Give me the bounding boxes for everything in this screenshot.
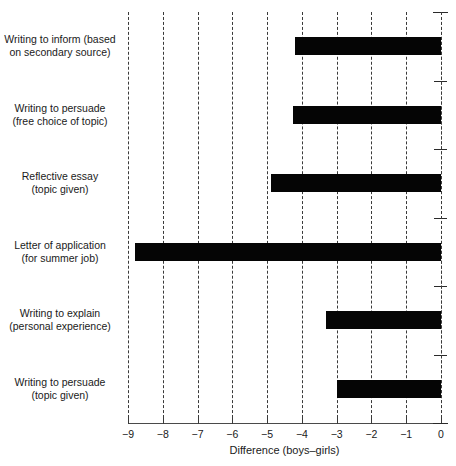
category-label-line: (personal experience) xyxy=(0,320,120,333)
category-label-line: (topic given) xyxy=(0,183,120,196)
gridline xyxy=(337,12,338,423)
x-tick xyxy=(337,418,338,424)
gridline xyxy=(198,12,199,423)
category-label: Letter of application(for summer job) xyxy=(0,239,120,265)
x-tick-label: 0 xyxy=(429,428,453,440)
x-tick xyxy=(267,418,268,424)
x-tick-label: −5 xyxy=(255,428,279,440)
category-label-line: Writing to explain xyxy=(0,307,120,320)
category-label-line: Writing to persuade xyxy=(0,376,120,389)
x-axis-label: Difference (boys–girls) xyxy=(128,444,441,456)
x-tick-label: −2 xyxy=(359,428,383,440)
category-label-line: Letter of application xyxy=(0,239,120,252)
x-tick xyxy=(371,418,372,424)
bar xyxy=(337,380,441,398)
category-label-line: on secondary source) xyxy=(0,46,120,59)
x-tick xyxy=(163,418,164,424)
zero-gridline xyxy=(441,12,442,423)
category-label: Reflective essay(topic given) xyxy=(0,170,120,196)
category-label-line: (free choice of topic) xyxy=(0,115,120,128)
category-label: Writing to persuade(free choice of topic… xyxy=(0,102,120,128)
x-tick-label: −7 xyxy=(186,428,210,440)
x-tick xyxy=(406,418,407,424)
x-tick-label: −6 xyxy=(220,428,244,440)
category-label-line: Writing to inform (based xyxy=(0,33,120,46)
right-axis-tick xyxy=(433,423,448,424)
bar xyxy=(271,174,441,192)
category-label: Writing to persuade(topic given) xyxy=(0,376,120,402)
category-label-line: Reflective essay xyxy=(0,170,120,183)
x-tick xyxy=(302,418,303,424)
x-tick-label: −8 xyxy=(151,428,175,440)
gridline xyxy=(406,12,407,423)
horizontal-bar-chart: Writing to inform (basedon secondary sou… xyxy=(0,0,456,466)
category-label: Writing to inform (basedon secondary sou… xyxy=(0,33,120,59)
x-tick xyxy=(128,418,129,424)
x-tick-label: −3 xyxy=(325,428,349,440)
category-label-line: Writing to persuade xyxy=(0,102,120,115)
gridline xyxy=(267,12,268,423)
category-label-line: (topic given) xyxy=(0,389,120,402)
bar xyxy=(293,106,441,124)
gridline xyxy=(302,12,303,423)
x-tick xyxy=(198,418,199,424)
bar xyxy=(135,243,441,261)
gridline xyxy=(128,12,129,423)
bar xyxy=(326,311,441,329)
gridline xyxy=(371,12,372,423)
x-tick-label: −4 xyxy=(290,428,314,440)
category-label: Writing to explain(personal experience) xyxy=(0,307,120,333)
x-tick xyxy=(232,418,233,424)
category-label-line: (for summer job) xyxy=(0,252,120,265)
x-axis-line xyxy=(128,423,441,424)
bar xyxy=(295,37,441,55)
x-tick-label: −9 xyxy=(116,428,140,440)
gridline xyxy=(232,12,233,423)
x-tick-label: −1 xyxy=(394,428,418,440)
gridline xyxy=(163,12,164,423)
